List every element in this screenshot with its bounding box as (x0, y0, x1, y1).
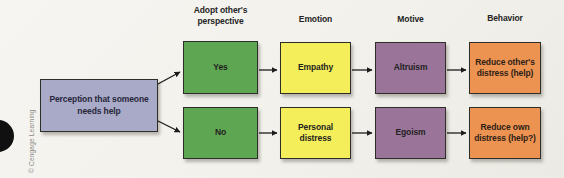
box-reduce-others-distress: Reduce other's distress (help) (469, 42, 541, 94)
box-empathy: Empathy (280, 42, 351, 94)
box-reduce-own-distress: Reduce own distress (help?) (469, 107, 541, 159)
column-header-perspective: Adopt other's perspective (178, 5, 263, 27)
box-personal-distress: Personal distress (280, 107, 351, 159)
arrow-perception-to-no (158, 121, 180, 132)
box-yes: Yes (183, 41, 258, 94)
page-edge-dot (0, 120, 14, 152)
column-header-motive: Motive (375, 14, 446, 25)
arrow-perception-to-yes (158, 72, 180, 84)
box-no: No (183, 107, 258, 159)
copyright-credit: © Cengage Learning (28, 87, 35, 173)
box-perception-needs-help: Perception that someone needs help (40, 79, 158, 132)
column-header-behavior: Behavior (469, 13, 541, 24)
diagram-canvas: © Cengage Learning Adopt other's perspec… (0, 0, 564, 178)
box-egoism: Egoism (375, 107, 446, 159)
box-altruism: Altruism (375, 42, 446, 94)
column-header-emotion: Emotion (280, 14, 351, 25)
